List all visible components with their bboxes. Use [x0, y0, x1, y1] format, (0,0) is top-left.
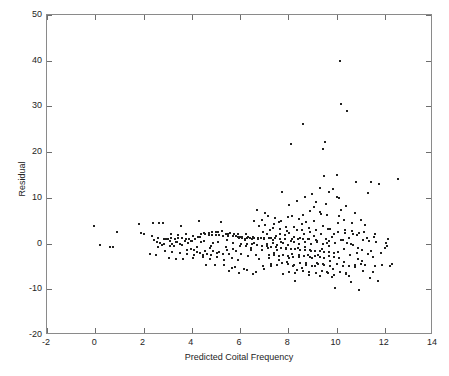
data-point: [194, 238, 196, 240]
data-point: [206, 253, 208, 255]
data-point: [385, 242, 387, 244]
data-point: [235, 235, 237, 237]
data-point: [186, 249, 188, 251]
data-point: [323, 251, 325, 253]
data-point: [316, 240, 318, 242]
data-point: [208, 234, 210, 236]
data-point: [346, 242, 348, 244]
data-point: [328, 240, 330, 242]
data-point: [279, 228, 281, 230]
data-point: [372, 256, 374, 258]
y-tick-label: 30: [32, 100, 42, 111]
data-point: [275, 246, 277, 248]
data-point: [222, 235, 224, 237]
data-point: [284, 238, 286, 240]
data-point: [155, 254, 157, 256]
data-point: [226, 249, 228, 251]
data-point: [285, 247, 287, 249]
data-point: [319, 250, 321, 252]
data-point: [303, 255, 305, 257]
data-point: [370, 181, 372, 183]
data-point: [291, 215, 293, 217]
data-point: [235, 250, 237, 252]
data-point: [192, 257, 194, 259]
data-point: [268, 237, 270, 239]
data-point: [329, 265, 331, 267]
data-point: [282, 273, 284, 275]
data-point: [285, 226, 287, 228]
data-point: [319, 187, 321, 189]
data-point: [381, 264, 383, 266]
data-point: [282, 242, 284, 244]
data-point: [333, 233, 335, 235]
data-point: [319, 275, 321, 277]
data-point: [332, 268, 334, 270]
data-point: [354, 212, 356, 214]
data-point: [280, 247, 282, 249]
plot-area: [46, 14, 432, 334]
data-point: [266, 233, 268, 235]
data-point: [350, 281, 352, 283]
data-point: [238, 272, 240, 274]
data-point: [308, 227, 310, 229]
data-point: [211, 231, 213, 233]
data-point: [239, 245, 241, 247]
data-point: [143, 233, 145, 235]
data-point: [305, 264, 307, 266]
data-point: [262, 231, 264, 233]
data-point: [225, 246, 227, 248]
data-point: [302, 270, 304, 272]
data-point: [279, 238, 281, 240]
data-point: [192, 235, 194, 237]
data-point: [293, 264, 295, 266]
data-point: [313, 235, 315, 237]
data-point: [247, 236, 249, 238]
data-point: [210, 245, 212, 247]
scatter-plot-figure: -202468101214 -20-1001020304050 Predicte…: [0, 0, 449, 376]
data-point: [342, 265, 344, 267]
data-point: [325, 238, 327, 240]
data-point: [258, 225, 260, 227]
data-point: [237, 259, 239, 261]
data-point: [281, 191, 283, 193]
data-point: [278, 259, 280, 261]
data-point: [298, 218, 300, 220]
data-point: [370, 250, 372, 252]
data-point: [151, 235, 153, 237]
data-point: [317, 263, 319, 265]
data-point: [268, 257, 270, 259]
data-point: [344, 229, 346, 231]
data-point: [386, 245, 388, 247]
data-point: [331, 236, 333, 238]
data-point: [157, 237, 159, 239]
data-point: [352, 244, 354, 246]
data-point: [268, 254, 270, 256]
data-point: [358, 289, 360, 291]
data-point: [204, 233, 206, 235]
data-point: [170, 237, 172, 239]
data-point: [222, 253, 224, 255]
data-point: [301, 267, 303, 269]
data-point: [274, 217, 276, 219]
data-point: [321, 248, 323, 250]
data-point: [171, 251, 173, 253]
data-point: [362, 270, 364, 272]
data-point: [299, 262, 301, 264]
data-point: [169, 245, 171, 247]
data-point: [290, 143, 292, 145]
data-point: [380, 252, 382, 254]
data-point: [338, 215, 340, 217]
data-point: [198, 220, 200, 222]
data-point: [256, 209, 258, 211]
data-point: [293, 236, 295, 238]
data-point: [366, 237, 368, 239]
data-point: [264, 212, 266, 214]
data-point: [286, 230, 288, 232]
data-point: [276, 249, 278, 251]
data-point: [228, 253, 230, 255]
data-point: [251, 243, 253, 245]
data-point: [350, 243, 352, 245]
data-point: [210, 254, 212, 256]
data-point: [93, 225, 95, 227]
y-tick-label: 40: [32, 54, 42, 65]
